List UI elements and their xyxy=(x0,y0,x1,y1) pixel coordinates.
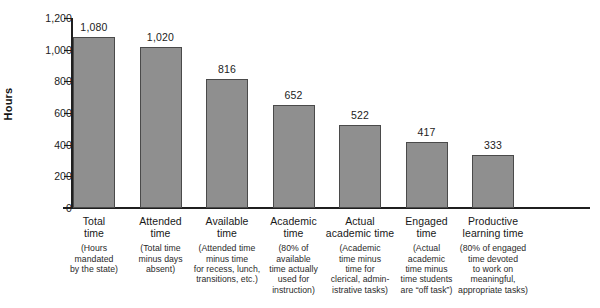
bar xyxy=(472,155,514,208)
bar xyxy=(140,47,182,209)
y-axis-tick-label: 200 xyxy=(14,171,72,181)
bar-value-label: 816 xyxy=(192,64,262,75)
y-axis-tick-label: 400 xyxy=(14,140,72,150)
y-axis-tick-label: 600 xyxy=(14,108,72,118)
bar xyxy=(206,79,248,208)
bar-chart-figure: Hours 02004006008001,0001,200 1,0801,020… xyxy=(0,0,600,308)
bar xyxy=(273,105,315,208)
y-axis-tick-label: 800 xyxy=(14,76,72,86)
category-description: (80% of engaged time devoted to work on … xyxy=(447,243,539,295)
y-axis-title: Hours xyxy=(2,74,14,134)
category-title: Productive learning time xyxy=(447,216,539,239)
bar-value-label: 333 xyxy=(458,140,528,151)
bar-value-label: 417 xyxy=(392,127,462,138)
bar-value-label: 1,080 xyxy=(59,22,129,33)
y-axis-tick-label: 1,000 xyxy=(14,45,72,55)
bar-value-label: 1,020 xyxy=(126,32,196,43)
category-label: Productive learning time(80% of engaged … xyxy=(447,216,539,295)
bar xyxy=(406,142,448,208)
bar xyxy=(339,125,381,208)
bar xyxy=(73,37,115,208)
bar-value-label: 652 xyxy=(259,90,329,101)
y-axis-tick-label: 0 xyxy=(14,203,72,213)
bar-value-label: 522 xyxy=(325,110,395,121)
